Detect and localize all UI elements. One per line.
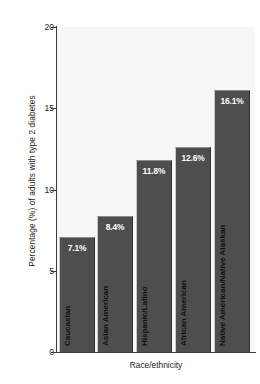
bar-native-american-native-alaskan[interactable]: 16.1% Native American/Native Alaskan xyxy=(214,27,250,352)
bar-rect-african-american: 12.6% African American xyxy=(175,147,211,352)
bar-hispanic-latino[interactable]: 11.8% Hispanic/Latino xyxy=(136,27,172,352)
bar-rect-hispanic-latino: 11.8% Hispanic/Latino xyxy=(136,160,172,352)
bars-layer: 7.1% Caucasian 8.4% Asian American 11.8%… xyxy=(57,27,255,352)
bar-value-hispanic-latino: 11.8% xyxy=(137,166,171,176)
bar-asian-american[interactable]: 8.4% Asian American xyxy=(97,27,133,352)
bar-value-caucasian: 7.1% xyxy=(60,243,94,253)
bar-value-african-american: 12.6% xyxy=(176,153,210,163)
bar-chart-figure: Percentage (%) of adults with type 2 dia… xyxy=(0,0,260,384)
bar-rect-native-american-native-alaskan: 16.1% Native American/Native Alaskan xyxy=(214,90,250,352)
bar-value-native-american-native-alaskan: 16.1% xyxy=(215,96,249,106)
bar-value-asian-american: 8.4% xyxy=(98,222,132,232)
x-axis-line xyxy=(56,352,256,353)
bar-caucasian[interactable]: 7.1% Caucasian xyxy=(59,27,95,352)
y-axis-tick-labels: 20 15 10 5 0 xyxy=(28,0,54,384)
x-axis-title: Race/ethnicity xyxy=(57,360,255,370)
bar-rect-caucasian: 7.1% Caucasian xyxy=(59,237,95,352)
bar-rect-asian-american: 8.4% Asian American xyxy=(97,216,133,352)
bar-african-american[interactable]: 12.6% African American xyxy=(175,27,211,352)
